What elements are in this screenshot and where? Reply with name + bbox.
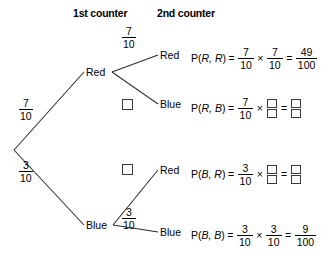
- equals-sign-2: =: [281, 103, 287, 114]
- prob-denominator: 10: [19, 171, 33, 183]
- prob-notation: P(R, B): [191, 103, 225, 114]
- numerator: 3: [240, 224, 250, 235]
- node-stage2-red-red: Red: [160, 50, 179, 61]
- prob-label-blue-blue: 3 10: [122, 207, 136, 230]
- prob-numerator: 3: [122, 207, 136, 218]
- factor2-fraction: 3 10: [266, 224, 282, 247]
- prob-numerator: 7: [122, 26, 136, 37]
- prob-denominator: 10: [122, 37, 136, 49]
- equals-sign-2: =: [285, 230, 291, 241]
- equation-row-red-red: P(R, R) = 7 10 × 7 10 = 49 100: [191, 47, 318, 70]
- multiply-sign: ×: [257, 169, 263, 180]
- blank-prob-box-blue-red[interactable]: [122, 164, 133, 175]
- denominator: 10: [266, 235, 282, 247]
- prob-notation: P(R, R): [191, 53, 226, 64]
- numerator: 7: [270, 47, 280, 58]
- result-blank-fraction: [291, 99, 301, 119]
- multiply-sign: ×: [257, 53, 263, 64]
- numerator: 49: [299, 47, 315, 58]
- blank-denominator-box[interactable]: [291, 109, 301, 118]
- equals-sign: =: [227, 230, 233, 241]
- prob-arguments: B, B: [202, 229, 222, 241]
- blank-denominator-box[interactable]: [267, 109, 277, 118]
- denominator: 10: [237, 235, 253, 247]
- numerator: 3: [269, 224, 279, 235]
- branch-red-to-red: [112, 55, 158, 72]
- numerator: 9: [300, 224, 310, 235]
- prob-notation: P(B, B): [191, 230, 225, 241]
- numerator: 7: [241, 47, 251, 58]
- multiply-sign: ×: [257, 103, 263, 114]
- multiply-sign: ×: [256, 230, 262, 241]
- equals-sign: =: [229, 53, 235, 64]
- denominator: 10: [238, 174, 254, 186]
- tree-branch-lines: [0, 0, 331, 261]
- probability-tree-diagram: 1st counter 2nd counter Red Blue 7 10 3 …: [0, 0, 331, 261]
- factor2-blank-fraction: [267, 99, 277, 119]
- prob-arguments: B, R: [202, 168, 222, 180]
- blank-numerator-box[interactable]: [291, 99, 301, 108]
- blank-numerator-box[interactable]: [291, 165, 301, 174]
- numerator: 3: [240, 163, 250, 174]
- branch-red-to-blue: [112, 72, 158, 104]
- factor1-fraction: 7 10: [238, 47, 254, 70]
- blank-numerator-box[interactable]: [267, 165, 277, 174]
- denominator: 100: [295, 235, 317, 247]
- factor1-fraction: 7 10: [238, 97, 254, 120]
- prob-arguments: R, B: [202, 102, 222, 114]
- equation-row-blue-red: P(B, R) = 3 10 × =: [191, 163, 303, 186]
- result-blank-fraction: [291, 165, 301, 185]
- factor2-fraction: 7 10: [267, 47, 283, 70]
- node-stage2-red-blue: Blue: [160, 99, 181, 110]
- blank-prob-box-red-blue[interactable]: [122, 99, 133, 110]
- equals-sign-2: =: [286, 53, 292, 64]
- denominator: 10: [238, 108, 254, 120]
- equation-row-red-blue: P(R, B) = 7 10 × =: [191, 97, 303, 120]
- blank-denominator-box[interactable]: [291, 175, 301, 184]
- result-fraction: 49 100: [296, 47, 318, 70]
- prob-notation: P(B, R): [191, 169, 225, 180]
- prob-arguments: R, R: [202, 52, 223, 64]
- equals-sign-2: =: [281, 169, 287, 180]
- prob-numerator: 7: [19, 98, 33, 109]
- equals-sign: =: [228, 103, 234, 114]
- equals-sign: =: [228, 169, 234, 180]
- prob-denominator: 10: [19, 109, 33, 121]
- result-fraction: 9 100: [295, 224, 317, 247]
- node-stage2-blue-red: Red: [160, 165, 179, 176]
- prob-label-root-blue: 3 10: [19, 160, 33, 183]
- node-stage2-blue-blue: Blue: [160, 227, 181, 238]
- factor1-fraction: 3 10: [238, 163, 254, 186]
- factor1-fraction: 3 10: [237, 224, 253, 247]
- blank-denominator-box[interactable]: [267, 175, 277, 184]
- blank-numerator-box[interactable]: [267, 99, 277, 108]
- prob-label-root-red: 7 10: [19, 98, 33, 121]
- prob-label-red-red: 7 10: [122, 26, 136, 49]
- numerator: 7: [240, 97, 250, 108]
- denominator: 100: [296, 58, 318, 70]
- node-stage1-blue: Blue: [86, 220, 107, 231]
- denominator: 10: [238, 58, 254, 70]
- factor2-blank-fraction: [267, 165, 277, 185]
- prob-denominator: 10: [122, 218, 136, 230]
- equation-row-blue-blue: P(B, B) = 3 10 × 3 10 = 9 100: [191, 224, 317, 247]
- node-stage1-red: Red: [86, 67, 105, 78]
- denominator: 10: [267, 58, 283, 70]
- prob-numerator: 3: [19, 160, 33, 171]
